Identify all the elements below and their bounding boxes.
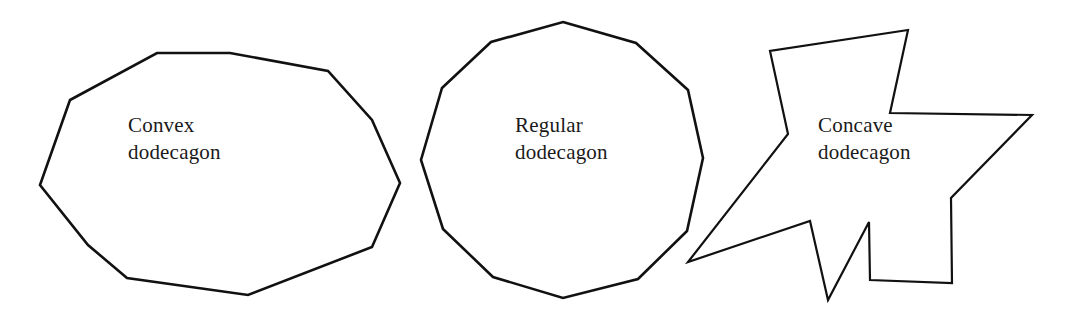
convex-dodecagon-outline [40, 53, 400, 295]
concave-dodecagon-label-line1: Concave [818, 113, 893, 137]
concave-dodecagon-label-line2: dodecagon [818, 140, 911, 164]
convex-dodecagon-label-line1: Convex [128, 113, 195, 137]
convex-dodecagon-label-line2: dodecagon [128, 140, 221, 164]
regular-dodecagon-label-line1: Regular [515, 113, 583, 137]
shapes-canvas: Convex dodecagon Regular dodecagon Conca… [0, 0, 1065, 324]
regular-dodecagon-label-line2: dodecagon [515, 140, 608, 164]
dodecagon-figure: Convex dodecagon Regular dodecagon Conca… [0, 0, 1065, 324]
concave-dodecagon-outline [688, 30, 1032, 300]
